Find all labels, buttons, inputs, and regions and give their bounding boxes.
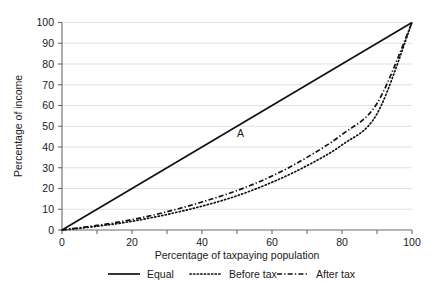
legend-label-after-tax: After tax [316,268,356,280]
y-tick-labels: 0102030405060708090100 [36,16,54,236]
legend-label-equal: Equal [147,268,174,280]
y-tick-label-50: 50 [42,120,54,132]
x-axis: 020406080100 [59,230,421,248]
legend-item-equal[interactable]: Equal [108,268,174,280]
y-tick-label-70: 70 [42,79,54,91]
y-axis-title: Percentage of income [12,75,24,177]
x-tick-label-20: 20 [126,236,138,248]
x-tick-label-100: 100 [403,236,421,248]
legend-item-after-tax[interactable]: After tax [277,268,356,280]
y-tick-label-100: 100 [36,16,54,28]
x-tick-marks [62,230,412,234]
y-axis: 0102030405060708090100 [36,16,62,236]
y-tick-marks [58,23,62,231]
x-tick-label-60: 60 [266,236,278,248]
x-tick-labels: 020406080100 [59,236,421,248]
y-tick-label-40: 40 [42,141,54,153]
annotation-a: A [237,127,244,139]
y-tick-label-0: 0 [48,224,54,236]
x-tick-label-40: 40 [196,236,208,248]
x-tick-label-80: 80 [336,236,348,248]
gridlines [62,23,412,210]
legend-item-before-tax[interactable]: Before tax [190,268,278,280]
y-tick-label-60: 60 [42,99,54,111]
plot-annotations: A [237,127,244,139]
y-tick-label-90: 90 [42,37,54,49]
legend: Equal Before tax After tax [108,268,356,280]
y-tick-label-10: 10 [42,203,54,215]
legend-label-before-tax: Before tax [229,268,278,280]
y-tick-label-80: 80 [42,58,54,70]
y-tick-label-30: 30 [42,162,54,174]
y-tick-label-20: 20 [42,182,54,194]
x-axis-title: Percentage of taxpaying population [155,249,320,261]
x-tick-label-0: 0 [59,236,65,248]
chart-svg: 0102030405060708090100 020406080100 A Pe… [0,0,436,292]
lorenz-curve-chart: 0102030405060708090100 020406080100 A Pe… [0,0,436,292]
